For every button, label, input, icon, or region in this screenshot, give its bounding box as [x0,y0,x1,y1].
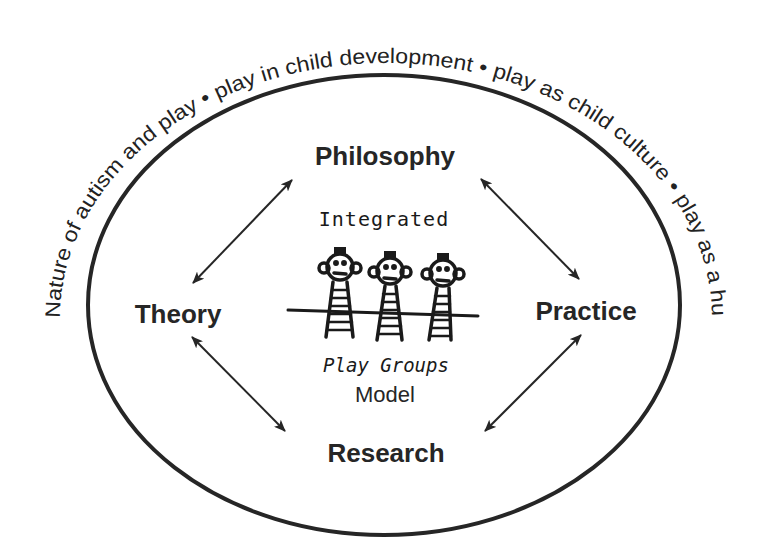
node-research: Research [327,438,444,468]
child-figure-3 [422,253,464,340]
center-title-play-groups: Play Groups [323,354,449,376]
children-illustration-icon [288,247,478,340]
arrow-philosophy-theory [193,180,292,283]
integrated-play-groups-diagram: Nature of autism and play • play in chil… [0,0,760,560]
child-figure-2 [369,251,411,340]
center-title-integrated: Integrated [319,207,449,231]
arrow-philosophy-practice [481,179,579,279]
node-practice: Practice [535,296,636,326]
arrow-theory-research [192,337,285,431]
node-philosophy: Philosophy [315,141,456,171]
arrow-practice-research [485,335,581,431]
center-title-model: Model [355,382,415,407]
child-figure-1 [319,247,361,337]
node-theory: Theory [135,299,222,329]
